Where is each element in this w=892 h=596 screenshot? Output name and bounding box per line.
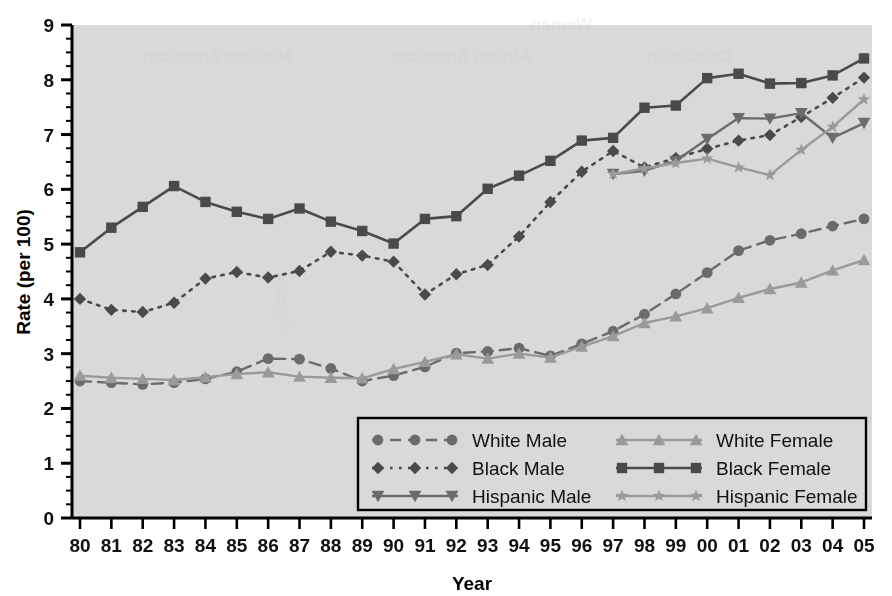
x-tick-label: 89 [352,535,373,556]
watermark-line: Caucasian [647,47,732,66]
data-point-marker [514,170,524,180]
y-tick-label: 3 [43,344,54,365]
y-axis-title: Rate (per 100) [13,209,34,335]
x-tick-label: 93 [477,535,498,556]
x-tick-label: 04 [822,535,844,556]
legend-label: Hispanic Male [472,486,591,507]
data-point-marker [410,435,421,446]
x-tick-label: 00 [697,535,718,556]
data-point-marker [796,228,807,239]
data-point-marker [691,463,701,473]
x-tick-label: 95 [540,535,562,556]
legend-label: Black Male [472,458,565,479]
x-tick-label: 03 [791,535,812,556]
y-tick-label: 6 [43,179,54,200]
legend-label: Black Female [716,458,831,479]
data-point-marker [420,214,430,224]
x-tick-label: 91 [414,535,436,556]
legend-label: White Male [472,430,567,451]
y-tick-label: 9 [43,15,54,36]
x-tick-label: 92 [446,535,467,556]
x-tick-label: 88 [320,535,341,556]
x-tick-label: 02 [759,535,780,556]
x-tick-label: 82 [132,535,153,556]
chart-container: WomenCaucasianAfrican AmericanMexican Am… [0,0,892,596]
x-tick-label: 99 [665,535,686,556]
data-point-marker [733,69,743,79]
x-tick-label: 86 [258,535,279,556]
chart-legend: White MaleBlack MaleHispanic MaleWhite F… [358,418,866,510]
data-point-marker [827,70,837,80]
x-tick-label: 97 [603,535,624,556]
x-tick-label: 87 [289,535,310,556]
data-point-marker [263,353,274,364]
x-tick-label: 81 [101,535,123,556]
y-tick-label: 0 [43,508,54,529]
data-point-marker [577,135,587,145]
x-axis-tick-labels: 8081828384858687888990919293949596979899… [69,535,875,556]
y-tick-label: 2 [43,398,54,419]
data-point-marker [859,53,869,63]
data-point-marker [859,214,870,225]
data-point-marker [263,214,273,224]
data-point-marker [106,222,116,232]
data-point-marker [138,202,148,212]
x-axis-title: Year [452,573,493,594]
data-point-marker [75,247,85,257]
watermark-vertical: Percent [274,271,291,330]
y-tick-label: 1 [43,453,54,474]
data-point-marker [294,354,305,365]
data-point-marker [702,73,712,83]
data-point-marker [765,78,775,88]
data-point-marker [388,238,398,248]
data-point-marker [702,267,713,278]
x-tick-label: 01 [728,535,750,556]
x-tick-label: 85 [226,535,248,556]
watermark-line: Mexican American [143,47,292,66]
y-tick-label: 7 [43,125,54,146]
legend-label: Hispanic Female [716,486,858,507]
y-tick-label: 5 [43,234,54,255]
data-point-marker [357,226,367,236]
line-chart: WomenCaucasianAfrican AmericanMexican Am… [0,0,892,596]
x-tick-label: 84 [195,535,217,556]
y-tick-label: 8 [43,70,54,91]
x-tick-label: 90 [383,535,404,556]
data-point-marker [796,78,806,88]
x-tick-label: 80 [69,535,90,556]
x-tick-label: 94 [508,535,530,556]
data-point-marker [451,211,461,221]
data-point-marker [200,197,210,207]
y-tick-label: 4 [43,289,54,310]
data-point-marker [654,463,664,473]
data-point-marker [447,435,458,446]
x-tick-label: 96 [571,535,592,556]
watermark-line: African American [392,47,532,66]
data-point-marker [671,100,681,110]
watermark-line: Women [531,15,592,34]
y-axis-tick-labels: 0123456789 [43,15,54,529]
data-point-marker [294,203,304,213]
data-point-marker [827,221,838,232]
data-point-marker [670,289,681,300]
x-tick-label: 83 [164,535,185,556]
x-tick-label: 98 [634,535,655,556]
data-point-marker [482,184,492,194]
data-point-marker [733,245,744,256]
data-point-marker [545,156,555,166]
data-point-marker [326,216,336,226]
x-tick-label: 05 [853,535,875,556]
data-point-marker [639,103,649,113]
legend-label: White Female [716,430,833,451]
data-point-marker [232,207,242,217]
data-point-marker [169,181,179,191]
data-point-marker [608,133,618,143]
data-point-marker [617,463,627,473]
data-point-marker [373,435,384,446]
data-point-marker [765,235,776,246]
